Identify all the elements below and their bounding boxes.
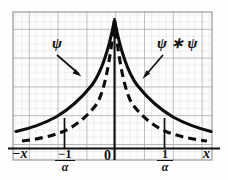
curve-label-psi: ψ [52, 36, 62, 51]
tick-label-minus-one-over-alpha: −1 α [55, 148, 75, 173]
tick-label-one-over-alpha-denominator: α [157, 161, 173, 173]
tick-label-one-over-alpha-numerator: 1 [157, 148, 173, 161]
tick-label-one-over-alpha: 1 α [157, 148, 173, 173]
tick-label-minus-one-over-alpha-numerator: −1 [55, 148, 75, 161]
figure-container: ψ ψ ∗ ψ −x x 0 −1 α 1 α [0, 0, 228, 180]
x-axis-label-right: x [203, 147, 210, 161]
origin-label: 0 [104, 149, 111, 163]
plot-canvas [0, 0, 228, 180]
x-axis-label-left: −x [12, 147, 27, 161]
curve-label-psi-conv-psi: ψ ∗ ψ [157, 36, 198, 51]
tick-label-minus-one-over-alpha-denominator: α [55, 161, 75, 173]
